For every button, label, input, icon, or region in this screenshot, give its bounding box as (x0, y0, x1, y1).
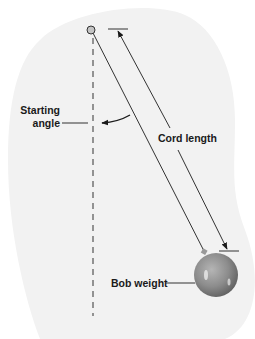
bob-weight-label: Bob weight (111, 277, 168, 289)
pendulum-diagram: Starting angle Cord length Bob weight (0, 0, 255, 339)
starting-angle-label-line1: Starting (4, 104, 60, 116)
bob-weight-icon (194, 253, 238, 297)
pivot-icon (87, 26, 95, 34)
bob-highlight (204, 270, 208, 280)
bob-highlight-small (228, 279, 231, 286)
cord-length-label: Cord length (158, 132, 217, 144)
starting-angle-label-line2: angle (4, 117, 60, 129)
